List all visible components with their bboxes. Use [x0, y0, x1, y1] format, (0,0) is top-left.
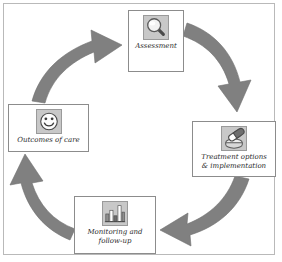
arrow-assessment-to-treatment — [183, 23, 251, 112]
arrow-monitoring-to-outcomes — [10, 154, 75, 240]
diagram-canvas: Assessment Treatment options & implement… — [0, 0, 282, 262]
bar-chart-icon — [102, 201, 128, 226]
node-monitoring-label: Monitoring and follow-up — [85, 228, 144, 245]
smiley-face-icon — [36, 109, 62, 134]
node-assessment[interactable]: Assessment — [128, 10, 184, 72]
magnifier-icon — [143, 15, 169, 40]
pill-capsule-icon — [221, 126, 247, 151]
node-outcomes[interactable]: Outcomes of care — [8, 104, 89, 152]
arrow-outcomes-to-assessment — [32, 30, 122, 103]
node-outcomes-label: Outcomes of care — [15, 136, 81, 145]
node-treatment-label: Treatment options & implementation — [199, 153, 269, 170]
node-monitoring[interactable]: Monitoring and follow-up — [74, 196, 156, 254]
arrow-treatment-to-monitoring — [160, 176, 249, 246]
node-assessment-label: Assessment — [133, 42, 179, 51]
node-treatment[interactable]: Treatment options & implementation — [192, 121, 276, 177]
